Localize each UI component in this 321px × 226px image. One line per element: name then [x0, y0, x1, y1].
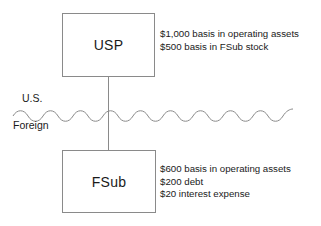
annotation-line: $600 basis in operating assets [160, 163, 291, 176]
jurisdiction-border-wave-icon [8, 106, 298, 126]
jurisdiction-label-us: U.S. [22, 93, 42, 104]
entity-box-usp: USP [62, 13, 155, 77]
annotation-line: $200 debt [160, 176, 291, 189]
entity-box-fsub: FSub [62, 150, 156, 213]
annotation-line: $1,000 basis in operating assets [160, 28, 299, 41]
annotation-fsub: $600 basis in operating assets $200 debt… [160, 163, 291, 201]
annotation-line: $500 basis in FSub stock [160, 41, 299, 54]
annotation-usp: $1,000 basis in operating assets $500 ba… [160, 28, 299, 53]
entity-label-fsub: FSub [92, 175, 126, 189]
jurisdiction-label-foreign: Foreign [13, 120, 49, 131]
entity-label-usp: USP [94, 38, 123, 52]
diagram-canvas: USP U.S. Foreign FSub $1,000 basis in op… [0, 0, 321, 226]
annotation-line: $20 interest expense [160, 188, 291, 201]
